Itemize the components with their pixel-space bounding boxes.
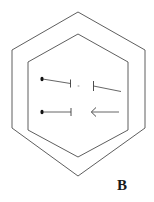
arrow-top-left-tail-dot bbox=[40, 77, 43, 82]
figure-panel-b: B bbox=[0, 0, 154, 202]
inner-hexagon bbox=[28, 34, 128, 157]
arrow-top-left bbox=[40, 77, 70, 88]
arrow-bottom-right bbox=[91, 108, 119, 117]
arrow-bottom-left bbox=[40, 108, 71, 116]
outer-hexagon bbox=[12, 12, 145, 176]
arrow-bottom-left-tail-dot bbox=[40, 110, 43, 115]
hexagon-diagram bbox=[0, 0, 154, 202]
arrow-top-right-shaft bbox=[94, 86, 122, 92]
panel-label-b: B bbox=[117, 178, 127, 193]
arrow-top-left-shaft bbox=[43, 79, 71, 84]
center-dot bbox=[77, 85, 79, 87]
arrow-top-right bbox=[94, 81, 122, 92]
